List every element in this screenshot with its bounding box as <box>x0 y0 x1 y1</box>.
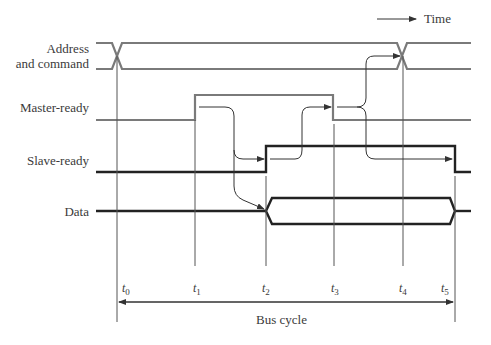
time-legend-label: Time <box>424 11 451 26</box>
signal-label-data: Data <box>0 204 89 219</box>
bus-cycle-label: Bus cycle <box>256 312 307 327</box>
time-marker-t3: t3 <box>331 281 339 297</box>
signal-label-address-line2: and command <box>0 56 89 71</box>
signal-label-address-line1: Address <box>0 41 89 56</box>
master-ready-waveform <box>96 95 471 120</box>
time-marker-t2: t2 <box>262 281 270 297</box>
data-waveform <box>96 198 471 224</box>
time-marker-t5: t5 <box>441 281 449 297</box>
causality-arrows <box>199 56 452 209</box>
signal-label-address: Address and command <box>0 41 89 71</box>
time-marker-t0: t0 <box>122 281 130 297</box>
address-command-waveform <box>96 43 471 69</box>
signal-label-slave-ready: Slave-ready <box>0 153 89 168</box>
time-marker-t1: t1 <box>193 281 201 297</box>
time-marker-t4: t4 <box>399 281 407 297</box>
signal-label-master-ready: Master-ready <box>0 100 89 115</box>
